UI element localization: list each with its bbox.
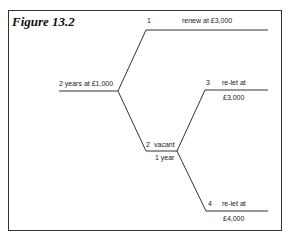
branch-3-label: re-let at [222, 79, 246, 86]
branch-1-number: 1 [147, 17, 151, 24]
branch-4-label: re-let at [222, 200, 246, 207]
decision-tree-lines [0, 0, 291, 240]
branch-4-value: £4,000 [223, 215, 244, 222]
branch-4-number: 4 [208, 200, 212, 207]
root-label: 2 years at £1,000 [59, 80, 113, 87]
branch-3-value: £3,000 [223, 94, 244, 101]
branch-3-number: 3 [206, 79, 210, 86]
branch-2-sublabel: 1 year [155, 154, 174, 161]
branch-2-number: 2 [146, 141, 150, 148]
branch-1-label: renew at £3,000 [182, 17, 232, 24]
branch-2-label: vacant [154, 141, 175, 148]
